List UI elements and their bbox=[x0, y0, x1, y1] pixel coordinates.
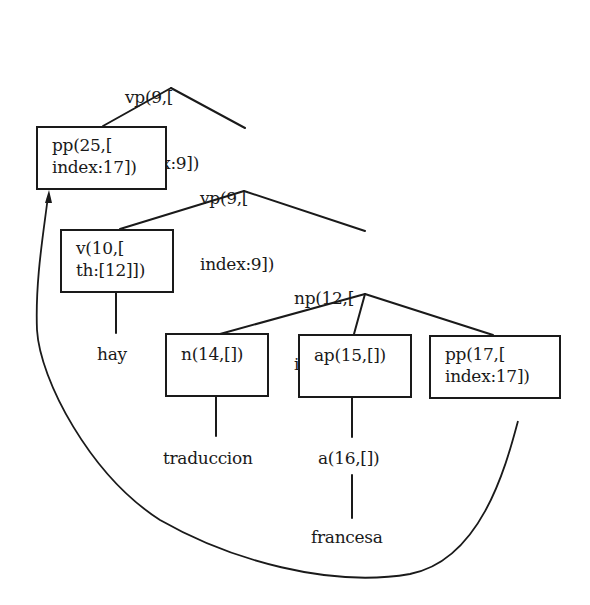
node-label-line1: np(12,[ bbox=[294, 287, 379, 309]
node-label-line2: index:9]) bbox=[200, 253, 274, 275]
node-label-line1: n(14,[]) bbox=[167, 335, 267, 365]
arrowhead-icon bbox=[45, 190, 52, 203]
leaf-francesa: francesa bbox=[311, 526, 383, 548]
node-label-line2: th:[12]]) bbox=[62, 259, 172, 281]
node-pp25-box: pp(25,[ index:17]) bbox=[36, 126, 167, 190]
node-label-line2: index:17]) bbox=[431, 365, 559, 387]
node-n14-box: n(14,[]) bbox=[165, 333, 269, 397]
node-a16: a(16,[]) bbox=[318, 447, 379, 469]
node-label-line1: vp(9,[ bbox=[125, 86, 199, 108]
node-label-line1: pp(17,[ bbox=[431, 337, 559, 365]
node-label-line1: ap(15,[]) bbox=[300, 336, 410, 366]
node-label-line2: index:17]) bbox=[38, 156, 165, 178]
node-vp9-inner: vp(9,[ index:9]) bbox=[200, 143, 274, 297]
edge-np12-pp17 bbox=[365, 294, 493, 335]
node-v10-box: v(10,[ th:[12]]) bbox=[60, 229, 174, 293]
node-pp17-box: pp(17,[ index:17]) bbox=[429, 335, 561, 399]
node-label-line1: pp(25,[ bbox=[38, 128, 165, 156]
node-ap15-box: ap(15,[]) bbox=[298, 334, 412, 398]
leaf-hay: hay bbox=[97, 343, 127, 365]
node-label-line1: vp(9,[ bbox=[200, 187, 274, 209]
leaf-traduccion: traduccion bbox=[163, 447, 253, 469]
node-label-line1: v(10,[ bbox=[62, 231, 172, 259]
